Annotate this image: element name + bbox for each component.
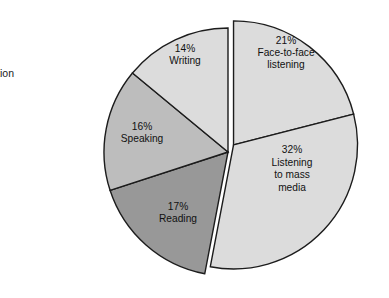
slice-name-text: Reading [159, 213, 197, 224]
slice-name-text: listening [267, 59, 305, 70]
pie-chart-svg: 21%Face-to-facelistening32%Listeningto m… [0, 0, 389, 298]
slice-name-text: Speaking [121, 133, 164, 144]
slice-name-text: Writing [169, 55, 201, 66]
slice-percent-text: 14% [175, 43, 195, 54]
slice-percent-text: 32% [282, 144, 302, 155]
slice-percent-text: 16% [132, 121, 152, 132]
slice-percent-text: 21% [276, 35, 296, 46]
pie-chart-figure: d unication 21%Face-to-facelistening32%L… [0, 0, 389, 298]
pie-slices-group [104, 21, 358, 274]
slice-percent-text: 17% [168, 201, 188, 212]
slice-name-text: to mass [274, 169, 310, 180]
slice-name-text: Listening [272, 157, 313, 168]
slice-name-text: Face-to-face [257, 47, 315, 58]
slice-name-text: media [278, 182, 306, 193]
